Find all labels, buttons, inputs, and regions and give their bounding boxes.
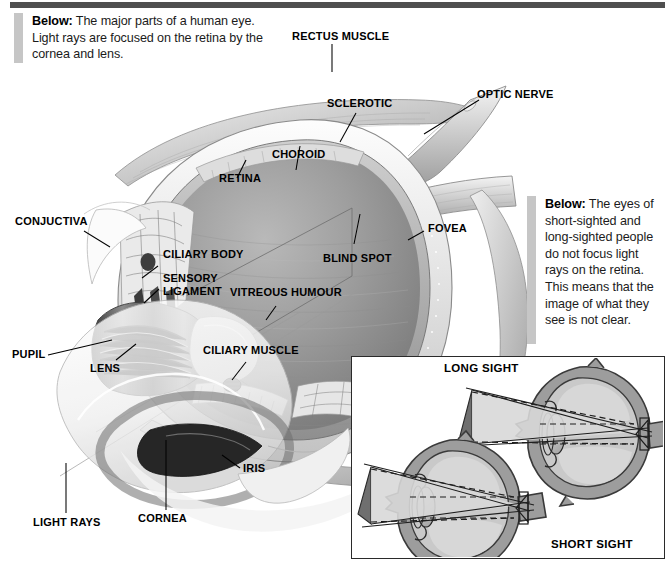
- label-rectus-muscle: RECTUS MUSCLE: [292, 30, 389, 43]
- label-pupil: PUPIL: [12, 348, 45, 361]
- caption-left-lead: Below:: [32, 14, 73, 28]
- label-iris: IRIS: [243, 462, 265, 475]
- label-optic-nerve: OPTIC NERVE: [477, 88, 554, 101]
- label-ciliary-muscle: CILIARY MUSCLE: [203, 344, 299, 357]
- label-long-sight: LONG SIGHT: [444, 362, 519, 374]
- label-sensory-ligament: SENSORY LIGAMENT: [163, 272, 239, 298]
- label-conjuctiva: CONJUCTIVA: [15, 215, 88, 228]
- label-short-sight: SHORT SIGHT: [551, 538, 633, 550]
- caption-right: Below: The eyes of short-sighted and lon…: [527, 196, 663, 344]
- label-ciliary-body: CILIARY BODY: [163, 248, 244, 261]
- sight-defects-inset-panel: [351, 356, 665, 559]
- label-blind-spot: BLIND SPOT: [323, 252, 392, 265]
- label-cornea: CORNEA: [138, 512, 187, 525]
- caption-accent-bar: [527, 196, 536, 344]
- caption-right-lead: Below:: [545, 197, 586, 211]
- label-lens: LENS: [90, 362, 120, 375]
- caption-right-body: The eyes of short-sighted and long-sight…: [545, 197, 654, 327]
- diagram-page: Below: The major parts of a human eye. L…: [0, 0, 671, 567]
- caption-left-text: Below: The major parts of a human eye. L…: [32, 13, 264, 63]
- caption-right-text: Below: The eyes of short-sighted and lon…: [545, 196, 663, 344]
- label-fovea: FOVEA: [428, 222, 467, 235]
- label-sclerotic: SCLEROTIC: [327, 97, 392, 110]
- label-retina: RETINA: [219, 172, 261, 185]
- label-light-rays: LIGHT RAYS: [33, 516, 101, 529]
- label-choroid: CHOROID: [272, 148, 325, 161]
- top-rule: [10, 2, 665, 8]
- label-vitreous-humour: VITREOUS HUMOUR: [230, 286, 342, 299]
- caption-accent-bar: [14, 13, 23, 63]
- caption-left: Below: The major parts of a human eye. L…: [14, 13, 264, 63]
